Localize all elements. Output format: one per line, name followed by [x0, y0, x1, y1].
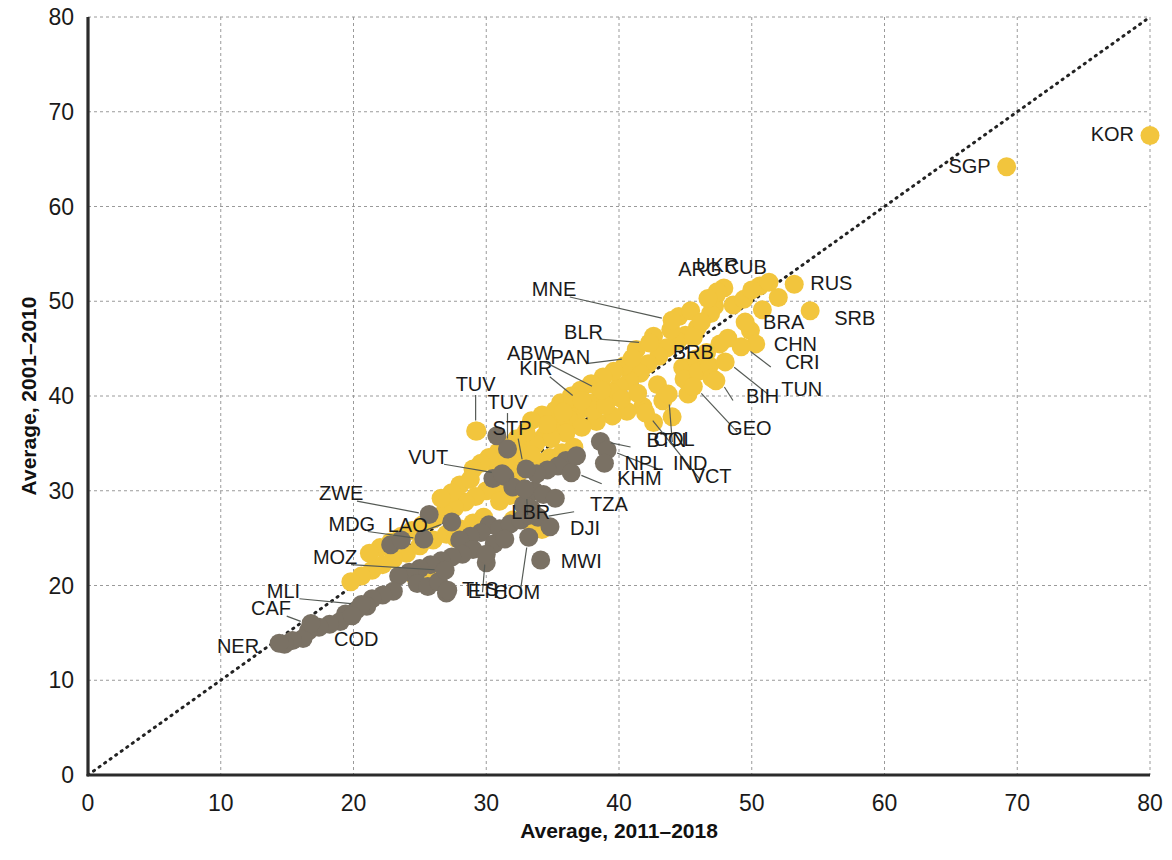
- y-tick-label: 30: [48, 478, 74, 504]
- data-point-labeled-moz: [436, 561, 455, 580]
- point-label-geo: GEO: [727, 417, 771, 439]
- point-label-khm: KHM: [617, 467, 661, 489]
- point-label-lbr: LBR: [511, 501, 550, 523]
- data-point-yellow: [769, 288, 788, 307]
- data-point-labeled-bra: [736, 313, 755, 332]
- point-label-cri: CRI: [785, 351, 819, 373]
- x-tick-label: 60: [872, 790, 898, 816]
- data-point-labeled-pan: [623, 349, 642, 368]
- point-label-bra: BRA: [763, 311, 805, 333]
- point-label-lao: LAO: [388, 514, 428, 536]
- x-tick-label: 50: [739, 790, 765, 816]
- data-point-labeled-tun: [716, 352, 735, 371]
- x-tick-label: 0: [82, 790, 95, 816]
- data-point-labeled-cub: [742, 280, 761, 299]
- data-point-labeled-sgp: [997, 157, 1016, 176]
- y-tick-label: 60: [48, 194, 74, 220]
- data-point-yellow: [554, 403, 573, 422]
- point-label-ind: IND: [673, 452, 707, 474]
- x-tick-label: 70: [1004, 790, 1030, 816]
- y-tick-label: 70: [48, 99, 74, 125]
- data-point-labeled-ner: [270, 634, 289, 653]
- data-point-labeled-geo: [684, 377, 703, 396]
- data-point-labeled-lao: [442, 513, 461, 532]
- point-label-rus: RUS: [810, 272, 852, 294]
- point-label-caf: CAF: [251, 597, 291, 619]
- data-point-yellow: [461, 470, 480, 489]
- x-tick-label: 10: [208, 790, 234, 816]
- data-point-yellow: [663, 407, 682, 426]
- point-label-cod: COD: [334, 628, 378, 650]
- point-label-vut: VUT: [408, 446, 448, 468]
- data-point-labeled-kir: [572, 391, 591, 410]
- data-point-labeled-com: [519, 528, 538, 547]
- point-label-srb: SRB: [834, 307, 875, 329]
- y-tick-label: 50: [48, 288, 74, 314]
- y-tick-label: 20: [48, 573, 74, 599]
- point-label-ner: NER: [217, 635, 259, 657]
- point-label-mdg: MDG: [329, 513, 376, 535]
- data-point-dark: [567, 446, 586, 465]
- x-tick-label: 20: [341, 790, 367, 816]
- data-point-labeled-tuv: [466, 422, 485, 441]
- data-point-labeled-rus: [785, 275, 804, 294]
- point-label-btn: BTN: [646, 429, 686, 451]
- data-point-labeled-tls: [477, 545, 496, 564]
- x-tick-label: 80: [1137, 790, 1163, 816]
- point-label-kor: KOR: [1091, 123, 1134, 145]
- point-label-eth: ETH: [468, 580, 508, 602]
- y-axis-title: Average, 2001–2010: [17, 297, 40, 496]
- point-label-brb: BRB: [673, 341, 714, 363]
- data-point-labeled-tuv: [498, 440, 517, 459]
- data-point-labeled-mwi: [531, 550, 550, 569]
- data-point-labeled-eth: [438, 581, 457, 600]
- point-label-abw: ABW: [507, 342, 553, 364]
- data-point-labeled-arg: [698, 289, 717, 308]
- point-label-blr: BLR: [564, 321, 603, 343]
- data-point-labeled-mne: [663, 311, 682, 330]
- data-point-labeled-lbr: [515, 479, 534, 498]
- point-label-moz: MOZ: [313, 546, 357, 568]
- x-tick-label: 30: [473, 790, 499, 816]
- y-tick-label: 0: [61, 762, 74, 788]
- x-tick-label: 40: [606, 790, 632, 816]
- data-point-labeled-cri: [732, 337, 751, 356]
- point-label-zwe: ZWE: [319, 482, 363, 504]
- point-label-tun: TUN: [781, 378, 822, 400]
- data-point-labeled-bih: [706, 371, 725, 390]
- point-label-arg: ARG: [678, 258, 721, 280]
- point-label-sgp: SGP: [948, 155, 990, 177]
- point-label-mne: MNE: [532, 278, 576, 300]
- point-label-bih: BIH: [746, 385, 779, 407]
- point-label-stp: STP: [493, 417, 532, 439]
- point-label-pan: PAN: [550, 346, 590, 368]
- point-label-dji: DJI: [570, 517, 600, 539]
- data-point-yellow: [341, 572, 360, 591]
- data-point-labeled-kor: [1141, 126, 1160, 145]
- point-label-tuv: TUV: [487, 391, 528, 413]
- y-tick-label: 40: [48, 383, 74, 409]
- data-point-labeled-vct: [636, 404, 655, 423]
- data-point-labeled-vut: [493, 464, 512, 483]
- y-tick-label: 10: [48, 667, 74, 693]
- data-point-labeled-caf: [302, 614, 321, 633]
- scatter-plot-figure: 0102030405060708001020304050607080Averag…: [0, 0, 1172, 860]
- data-point-yellow: [628, 384, 647, 403]
- point-label-tza: TZA: [590, 493, 628, 515]
- point-label-mwi: MWI: [561, 550, 602, 572]
- data-point-labeled-npl: [595, 454, 614, 473]
- data-point-yellow: [432, 489, 451, 508]
- data-point-labeled-col: [659, 385, 678, 404]
- data-point-dark: [495, 530, 514, 549]
- data-point-labeled-khm: [562, 463, 581, 482]
- data-point-labeled-abw: [592, 381, 611, 400]
- chart-svg: 0102030405060708001020304050607080Averag…: [0, 0, 1172, 860]
- y-tick-label: 80: [48, 4, 74, 30]
- data-point-labeled-cod: [343, 606, 362, 625]
- data-point-labeled-stp: [517, 459, 536, 478]
- x-axis-title: Average, 2011–2018: [520, 819, 718, 842]
- data-point-labeled-blr: [640, 333, 659, 352]
- data-point-yellow: [538, 415, 557, 434]
